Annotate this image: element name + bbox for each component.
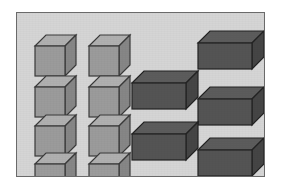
cube-item [35,35,76,76]
cube-item [35,76,76,117]
cube-item [35,153,76,177]
light-cube-count: 8 [0,0,1,1]
dark-box-item [198,31,264,69]
figure-title: Blocks comparison figure [0,0,1,1]
cube-item [89,76,130,117]
dark-box-group [132,31,264,176]
cube-item [89,153,130,177]
cube-item [89,115,130,156]
cube-item [89,35,130,76]
cube-item [35,115,76,156]
dark-block-count: 6 [0,0,1,1]
dark-box-item [132,122,198,160]
dark-box-item [198,138,264,176]
dark-box-item [132,71,198,109]
blocks-illustration [17,13,265,177]
light-cube-group [35,35,130,177]
dark-box-item [198,87,264,125]
figure-panel [16,12,265,177]
figure-root: Blocks comparison figure 8 6 [0,0,281,193]
